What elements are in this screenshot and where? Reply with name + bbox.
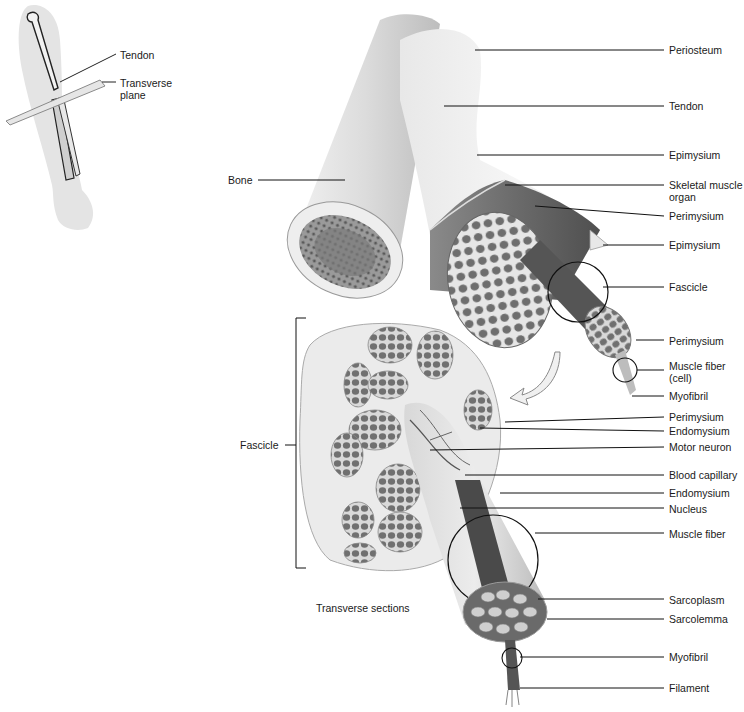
label-filament: Filament — [669, 682, 709, 694]
label-nucleus: Nucleus — [669, 503, 707, 515]
label-tendon: Tendon — [669, 100, 703, 112]
caption-transverse-sections: Transverse sections — [316, 602, 410, 614]
label-epimysium-1: Epimysium — [669, 149, 720, 161]
label-endomysium-2: Endomysium — [669, 487, 730, 499]
label-sarcoplasm: Sarcoplasm — [669, 594, 724, 606]
label-fascicle: Fascicle — [669, 281, 708, 293]
label-sarcolemma: Sarcolemma — [669, 613, 728, 625]
inset-label-transverse-plane: Transverse plane — [120, 77, 176, 101]
label-perimysium-3: Perimysium — [669, 411, 724, 423]
label-fascicle-left: Fascicle — [240, 439, 279, 451]
inset-label-tendon: Tendon — [120, 49, 154, 61]
label-epimysium-2: Epimysium — [669, 239, 720, 251]
label-muscle-fiber-cell: Muscle fiber (cell) — [669, 360, 729, 384]
label-periosteum: Periosteum — [669, 44, 722, 56]
label-perimysium-2: Perimysium — [669, 335, 724, 347]
label-muscle-fiber: Muscle fiber — [669, 528, 726, 540]
label-perimysium-1: Perimysium — [669, 210, 724, 222]
label-bone: Bone — [228, 174, 253, 186]
label-skeletal-muscle-organ: Skeletal muscle organ — [669, 179, 744, 203]
label-endomysium-1: Endomysium — [669, 425, 730, 437]
label-blood-capillary: Blood capillary — [669, 469, 737, 481]
arrow-icon — [510, 352, 560, 405]
label-myofibril-2: Myofibril — [669, 651, 708, 663]
label-motor-neuron: Motor neuron — [669, 441, 731, 453]
fascicle-section-drawing — [300, 323, 547, 707]
label-myofibril-1: Myofibril — [669, 390, 708, 402]
arm-inset — [6, 5, 116, 230]
